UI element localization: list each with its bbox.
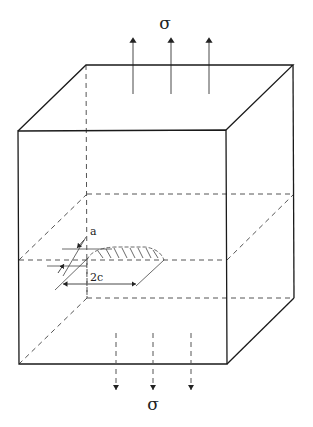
block	[18, 65, 294, 364]
mid-plane	[19, 194, 294, 260]
hidden-edges	[19, 65, 294, 364]
crack-block-diagram: σ	[0, 0, 313, 427]
tension-arrows-top	[133, 40, 209, 94]
dimension-a: a	[47, 225, 112, 276]
label-a: a	[90, 225, 97, 238]
label-2c: 2c	[90, 271, 103, 284]
stress-label-top: σ	[159, 13, 171, 33]
dimension-2c: 2c	[55, 258, 136, 290]
tension-arrows-bottom	[116, 333, 191, 390]
stress-label-bottom: σ	[147, 394, 159, 414]
